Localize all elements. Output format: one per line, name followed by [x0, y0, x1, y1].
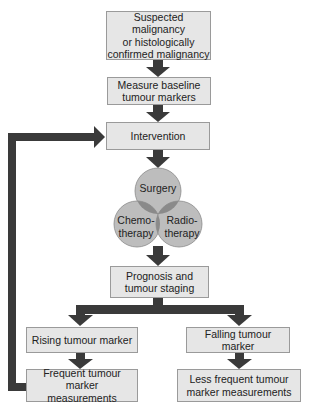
node-text-line: tumour markers	[122, 91, 196, 104]
node-text-line: Prognosis and	[126, 270, 193, 283]
arrow-prognosis-branch	[68, 297, 252, 326]
node-text: Intervention	[131, 130, 186, 143]
node-text-line: or histologically	[123, 36, 195, 49]
arrow-suspected-to-baseline	[146, 59, 170, 77]
node-text: Surgery	[140, 182, 177, 194]
arrow-treatment-to-prognosis	[146, 246, 170, 266]
label-surgery: Surgery	[133, 182, 183, 195]
node-text-line: tumour staging	[125, 282, 194, 295]
node-rising-marker: Rising tumour marker	[26, 327, 138, 353]
node-falling-marker: Falling tumour marker	[186, 327, 290, 353]
node-text-line: Frequent tumour marker	[27, 367, 137, 392]
node-text-line: Less frequent tumour	[189, 373, 288, 386]
node-text-line: marker measurements	[186, 386, 291, 399]
arrow-intervention-to-treatment	[146, 149, 170, 168]
node-frequent-measurements: Frequent tumour marker measurements	[26, 369, 138, 402]
node-text: Rising tumour marker	[32, 334, 132, 347]
node-text-line: confirmed malignancy	[107, 48, 209, 61]
node-measure-baseline: Measure baseline tumour markers	[107, 77, 211, 105]
node-text-line: Suspected malignancy	[107, 11, 210, 36]
node-less-frequent-measurements: Less frequent tumour marker measurements	[177, 369, 301, 402]
label-chemotherapy: Chemo- therapy	[114, 214, 158, 239]
node-suspected-malignancy: Suspected malignancy or histologically c…	[106, 11, 211, 60]
arrow-falling-to-less-frequent	[227, 352, 252, 369]
node-prognosis-staging: Prognosis and tumour staging	[110, 266, 209, 298]
label-radiotherapy: Radio- therapy	[160, 214, 204, 239]
node-text-line: Chemo-	[114, 214, 158, 227]
node-text-line: Measure baseline	[118, 79, 201, 92]
node-intervention: Intervention	[106, 122, 210, 150]
node-text: Falling tumour marker	[187, 328, 289, 353]
node-text-line: measurements	[47, 392, 116, 405]
node-text-line: therapy	[114, 227, 158, 240]
node-text-line: therapy	[160, 227, 204, 240]
arrow-baseline-to-intervention	[146, 104, 170, 122]
node-text-line: Radio-	[160, 214, 204, 227]
